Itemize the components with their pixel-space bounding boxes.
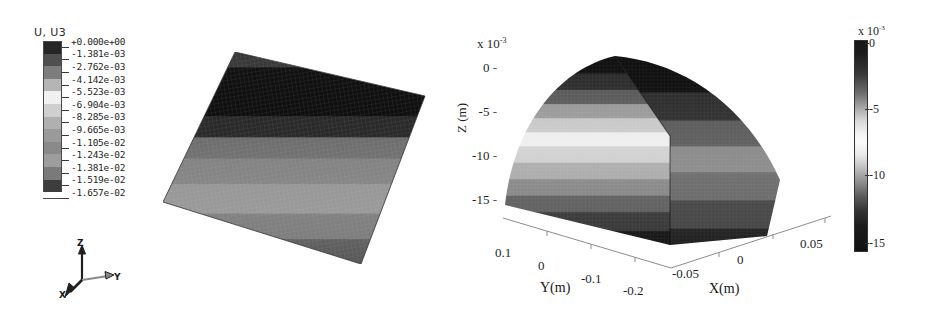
legend-label: -9.665e-03 — [71, 124, 125, 135]
legend-label: -1.243e-02 — [71, 149, 125, 160]
legend-label: -1.657e-02 — [71, 187, 125, 198]
triad-x-label: X — [59, 290, 66, 300]
legend-label: -2.762e-03 — [71, 61, 125, 72]
y-tick-label: 0.1 — [495, 245, 511, 261]
x-tick-label: 0.05 — [800, 236, 823, 252]
contour-legend: +0.000e+00-1.381e-03-2.762e-03-4.142e-03… — [43, 41, 125, 205]
legend-tick — [62, 198, 69, 199]
legend-swatch — [43, 91, 62, 104]
legend-label: -1.381e-03 — [71, 48, 125, 59]
colorbar-exponent-value: -3 — [879, 24, 885, 32]
legend-swatch — [43, 66, 62, 79]
legend-label: -1.519e-02 — [71, 174, 125, 185]
z-tick-label: -10 - — [461, 148, 497, 164]
legend-swatch — [43, 142, 62, 155]
legend-label: +0.000e+00 — [71, 35, 125, 46]
fea-shell-surface — [163, 52, 433, 264]
legend-tick — [62, 72, 69, 73]
legend-swatch — [43, 104, 62, 117]
y-tick-label: 0 — [538, 258, 545, 274]
legend-tick — [62, 59, 69, 60]
legend-swatch — [43, 79, 62, 92]
legend-tick — [62, 148, 69, 149]
legend-label: -6.904e-03 — [71, 98, 125, 109]
legend-tick — [62, 122, 69, 123]
legend-swatch — [43, 129, 62, 142]
colorbar-tick-label: -10 — [869, 168, 885, 183]
legend-tick — [62, 160, 69, 161]
colorbar-tick-label: 0 — [869, 36, 875, 51]
legend-tick — [62, 173, 69, 174]
axis-triad: Z Y X — [38, 240, 124, 306]
legend-label: -1.381e-02 — [71, 161, 125, 172]
legend-tick — [62, 185, 69, 186]
colorbar-tick-label: -15 — [869, 236, 885, 251]
triad-y-label: Y — [114, 272, 121, 282]
legend-row: -1.657e-02 — [43, 192, 125, 205]
triad-z-label: Z — [77, 238, 84, 248]
arch-surface-plot — [495, 40, 835, 275]
legend-label: -1.105e-02 — [71, 136, 125, 147]
y-tick-label: -0.1 — [581, 271, 602, 287]
legend-tick — [62, 110, 69, 111]
legend-label: -4.142e-03 — [71, 73, 125, 84]
y-axis-title: Y(m) — [540, 280, 570, 296]
analytical-surface-panel: x 10-3 Z (m) 0 --5 --10 --15 - — [455, 0, 927, 314]
z-tick-label: 0 - — [461, 60, 497, 76]
abaqus-contour-panel: U, U3 +0.000e+00-1.381e-03-2.762e-03-4.1… — [0, 0, 455, 314]
legend-swatch — [43, 154, 62, 167]
legend-swatch — [43, 198, 62, 199]
legend-tick — [62, 47, 69, 48]
x-tick-label: -0.05 — [672, 266, 699, 282]
legend-swatch — [43, 180, 62, 193]
legend-swatch — [43, 41, 62, 54]
x-axis-title: X(m) — [709, 281, 739, 297]
legend-title: U, U3 — [34, 26, 66, 39]
y-tick-label: -0.2 — [623, 283, 644, 299]
legend-tick — [62, 85, 69, 86]
colorbar-tick-label: -5 — [869, 102, 879, 117]
colorbar-group: x 10-3 0-5-10-15 — [854, 40, 924, 270]
legend-tick — [62, 97, 69, 98]
legend-label: -8.285e-03 — [71, 111, 125, 122]
z-tick-label: -15 - — [461, 192, 497, 208]
legend-swatch — [43, 167, 62, 180]
legend-swatch — [43, 117, 62, 130]
legend-tick — [62, 135, 69, 136]
colorbar-gradient — [854, 40, 868, 252]
z-tick-label: -5 - — [461, 104, 497, 120]
legend-swatch — [43, 54, 62, 67]
x-tick-label: 0 — [737, 252, 744, 268]
legend-label: -5.523e-03 — [71, 86, 125, 97]
figure-container: U, U3 +0.000e+00-1.381e-03-2.762e-03-4.1… — [0, 0, 927, 314]
